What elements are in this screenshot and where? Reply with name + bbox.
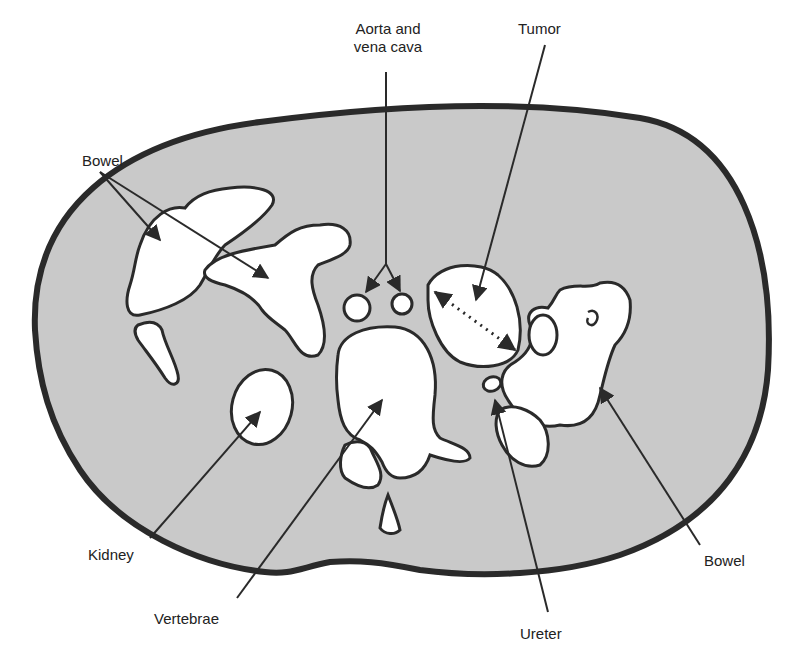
ct-cross-section-diagram [0, 0, 790, 669]
label-aorta-vena-cava: Aorta and vena cava [336, 20, 440, 56]
vena-cava [392, 294, 412, 314]
label-bowel-left: Bowel [82, 152, 123, 170]
label-aorta-line1: Aorta and [336, 20, 440, 38]
label-ureter: Ureter [520, 625, 562, 643]
aorta [344, 295, 370, 321]
label-tumor: Tumor [518, 20, 561, 38]
label-kidney: Kidney [88, 546, 134, 564]
label-aorta-line2: vena cava [336, 38, 440, 56]
label-vertebrae: Vertebrae [154, 610, 219, 628]
bowel-right-small [529, 315, 557, 355]
label-bowel-right: Bowel [704, 552, 745, 570]
